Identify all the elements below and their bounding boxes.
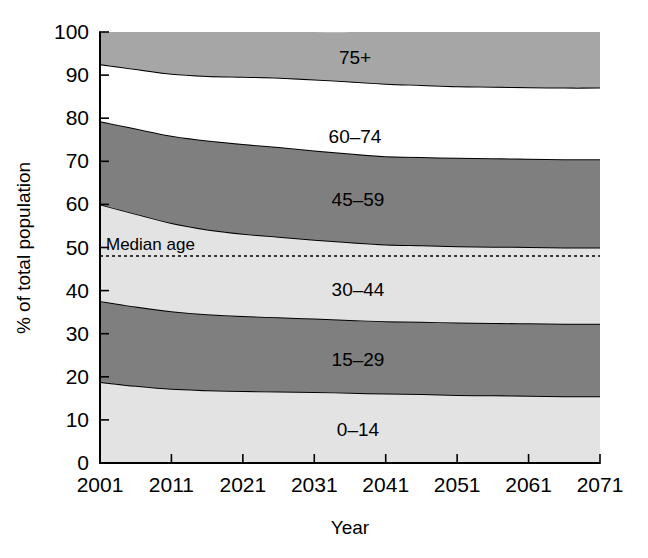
band-label-45-59: 45–59 bbox=[332, 189, 385, 210]
x-tick-label-2031: 2031 bbox=[291, 473, 338, 496]
y-tick-label-50: 50 bbox=[66, 236, 89, 259]
y-tick-label-20: 20 bbox=[66, 365, 89, 388]
y-tick-label-90: 90 bbox=[66, 63, 89, 86]
y-tick-label-60: 60 bbox=[66, 192, 89, 215]
x-tick-label-2021: 2021 bbox=[219, 473, 266, 496]
top-clip-mask bbox=[100, 0, 648, 32]
band-label-75-plus: 75+ bbox=[339, 47, 371, 68]
x-tick-label-2071: 2071 bbox=[577, 473, 624, 496]
x-tick-label-2061: 2061 bbox=[505, 473, 552, 496]
y-tick-label-40: 40 bbox=[66, 279, 89, 302]
band-label-30-44: 30–44 bbox=[332, 279, 385, 300]
median-age-label: Median age bbox=[106, 235, 195, 254]
y-tick-label-10: 10 bbox=[66, 408, 89, 431]
x-tick-label-2011: 2011 bbox=[149, 473, 194, 496]
y-axis-title: % of total population bbox=[13, 162, 34, 334]
y-tick-label-80: 80 bbox=[66, 106, 89, 129]
x-tick-label-2051: 2051 bbox=[434, 473, 481, 496]
y-tick-label-0: 0 bbox=[77, 451, 89, 474]
band-label-15-29: 15–29 bbox=[332, 349, 385, 370]
y-tick-label-30: 30 bbox=[66, 322, 89, 345]
y-tick-label-70: 70 bbox=[66, 149, 89, 172]
x-tick-label-2001: 2001 bbox=[77, 473, 124, 496]
band-label-0-14: 0–14 bbox=[337, 419, 380, 440]
x-axis-title: Year bbox=[331, 517, 370, 538]
stacked-area-chart-figure: 0102030405060708090100 20012011202120312… bbox=[0, 0, 648, 558]
x-tick-label-2041: 2041 bbox=[362, 473, 409, 496]
chart-canvas: 0102030405060708090100 20012011202120312… bbox=[0, 0, 648, 558]
band-label-60-74: 60–74 bbox=[329, 126, 382, 147]
y-tick-label-100: 100 bbox=[54, 20, 89, 43]
